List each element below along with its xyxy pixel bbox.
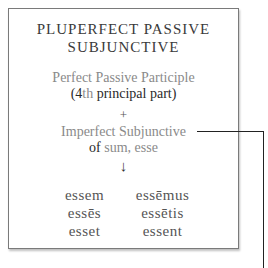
form-cell: essēs bbox=[54, 205, 116, 222]
form-cell: essēmus bbox=[132, 187, 194, 204]
pluperfect-passive-subjunctive-card: PLUPERFECT PASSIVE SUBJUNCTIVE Perfect P… bbox=[8, 8, 239, 249]
down-arrow-icon: ↓ bbox=[9, 158, 238, 175]
imperfect-subjunctive-label: Imperfect Subjunctive bbox=[9, 124, 238, 140]
form-row: essetessent bbox=[9, 223, 238, 240]
form-cell: esset bbox=[54, 223, 116, 240]
verb-note: of sum, esse bbox=[9, 140, 238, 156]
form-row: essemessēmus bbox=[9, 187, 238, 204]
of-word: of bbox=[89, 140, 104, 155]
form-row: essēsessētis bbox=[9, 205, 238, 222]
title-line-1: PLUPERFECT PASSIVE bbox=[9, 21, 238, 38]
part-open: (4 bbox=[71, 86, 83, 101]
part-th: th bbox=[82, 86, 93, 101]
verb-sum-esse: sum, esse bbox=[104, 140, 158, 155]
part-rest: principal part) bbox=[93, 86, 176, 101]
plus-sign: + bbox=[9, 107, 238, 123]
connector-line-horizontal bbox=[197, 131, 264, 132]
title-line-2: SUBJUNCTIVE bbox=[9, 39, 238, 56]
principal-part-note: (4th principal part) bbox=[9, 86, 238, 102]
form-cell: essent bbox=[132, 223, 194, 240]
form-cell: essem bbox=[54, 187, 116, 204]
participle-label: Perfect Passive Participle bbox=[9, 70, 238, 86]
connector-line-vertical bbox=[263, 131, 264, 268]
form-cell: essētis bbox=[132, 205, 194, 222]
